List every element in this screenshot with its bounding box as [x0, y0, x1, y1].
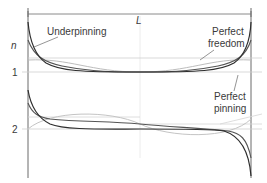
- underpinning-label: Underpinning: [47, 26, 107, 37]
- mode-2-label: 2: [12, 124, 18, 135]
- perfect-pinning-label-line2: pinning: [214, 103, 246, 114]
- mode-shape-diagram: L n 1 2 Underpinning Perfect freedom: [0, 0, 267, 183]
- mode-1-label: 1: [12, 67, 18, 78]
- annotation-underpinning: Underpinning: [34, 26, 107, 47]
- perfect-freedom-label-line1: Perfect: [212, 26, 244, 37]
- perfect-pinning-label-line1: Perfect: [214, 91, 246, 102]
- perfect-pinning-leader: [234, 75, 238, 91]
- y-axis-label: n: [11, 40, 17, 51]
- length-label: L: [136, 15, 142, 26]
- annotation-perfect-pinning: Perfect pinning: [214, 75, 246, 114]
- perfect-freedom-label-line2: freedom: [208, 38, 245, 49]
- underpinning-leader: [34, 37, 58, 47]
- mode-2-reference-line-right: [220, 114, 262, 124]
- perfect-freedom-leader: [200, 50, 214, 60]
- annotation-perfect-freedom: Perfect freedom: [200, 26, 245, 60]
